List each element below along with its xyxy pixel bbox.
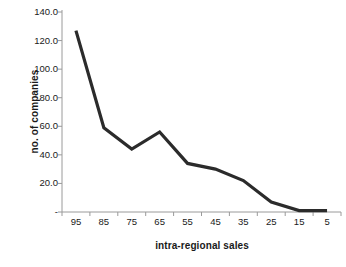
- axis-lines: [62, 10, 341, 212]
- line-chart: no. of companies intra-regional sales -2…: [0, 0, 346, 267]
- data-series-line: [76, 31, 327, 211]
- plot-area: [0, 0, 346, 267]
